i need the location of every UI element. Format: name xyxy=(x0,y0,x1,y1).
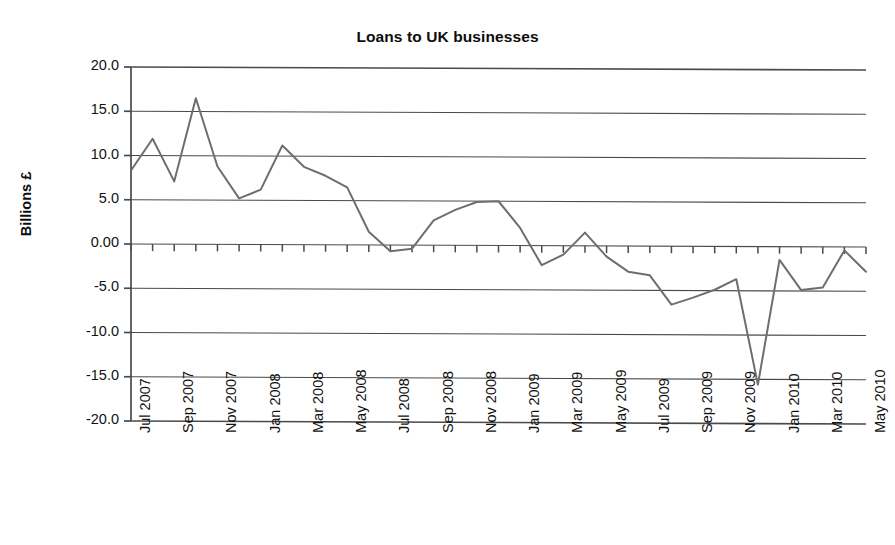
plot-area xyxy=(0,0,895,545)
y-tick-label: -20.0 xyxy=(57,411,119,427)
x-tick-label: Jan 2008 xyxy=(267,373,283,433)
gridline xyxy=(131,67,866,70)
y-tick-label: -10.0 xyxy=(57,323,119,339)
y-tick-label: 15.0 xyxy=(57,101,119,117)
gridline xyxy=(131,288,866,291)
gridline xyxy=(131,156,866,159)
x-tick-label: Nov 2007 xyxy=(223,371,239,433)
data-line xyxy=(131,98,866,384)
x-tick-label: Sep 2008 xyxy=(440,371,456,433)
y-tick-label: -5.0 xyxy=(57,278,119,294)
x-tick-label: Jan 2010 xyxy=(786,373,802,433)
x-tick-label: Jan 2009 xyxy=(526,373,542,433)
x-tick-label: Mar 2008 xyxy=(310,372,326,433)
x-tick-label: Mar 2009 xyxy=(569,372,585,433)
x-tick-label: May 2008 xyxy=(353,369,369,433)
y-tick-label: -15.0 xyxy=(57,367,119,383)
x-tick-label: Nov 2008 xyxy=(483,371,499,433)
gridline xyxy=(131,333,866,336)
x-tick-label: Nov 2009 xyxy=(742,371,758,433)
x-tick-label: May 2010 xyxy=(872,369,888,433)
x-tick-label: Jul 2008 xyxy=(396,378,412,433)
y-tick-label: 0.00 xyxy=(57,234,119,250)
x-tick-marks-group xyxy=(131,244,866,254)
x-tick-label: Jul 2007 xyxy=(137,378,153,433)
y-tick-label: 10.0 xyxy=(57,146,119,162)
x-tick-label: Sep 2009 xyxy=(699,371,715,433)
y-tick-label: 20.0 xyxy=(57,57,119,73)
y-tick-marks-group xyxy=(124,67,131,421)
chart-container: Loans to UK businesses Billions £ 20.015… xyxy=(0,0,895,545)
gridline xyxy=(131,111,866,114)
data-series-group xyxy=(131,98,866,384)
x-tick-label: Sep 2007 xyxy=(180,371,196,433)
x-tick-label: Jul 2009 xyxy=(656,378,672,433)
y-tick-label: 5.0 xyxy=(57,190,119,206)
x-tick-label: Mar 2010 xyxy=(829,372,845,433)
x-tick-label: May 2009 xyxy=(613,369,629,433)
